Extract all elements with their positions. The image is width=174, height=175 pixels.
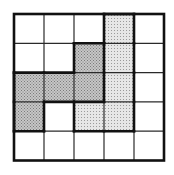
- grid-diagram: [0, 0, 174, 175]
- light-piece-cell: [74, 102, 104, 131]
- light-piece-cell: [104, 14, 134, 43]
- dark-piece-cell: [14, 73, 44, 102]
- light-piece-cell: [104, 102, 134, 131]
- dark-piece-cell: [74, 73, 104, 102]
- dark-piece-cell: [44, 73, 74, 102]
- dark-piece-cell: [14, 102, 44, 131]
- light-piece-cell: [104, 43, 134, 72]
- dark-piece-cell: [74, 43, 104, 72]
- light-piece-cell: [104, 73, 134, 102]
